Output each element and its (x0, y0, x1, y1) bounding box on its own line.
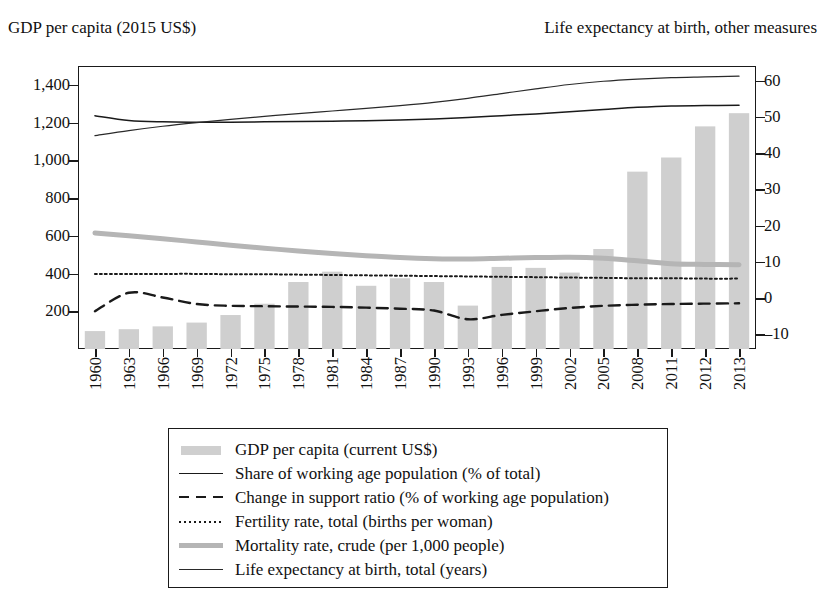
x-axis-tick-label: 1963 (120, 357, 140, 390)
x-axis-tick-label: 1972 (222, 357, 242, 390)
x-axis-tickmark (705, 349, 707, 357)
bar (390, 278, 410, 349)
legend-key-dashed-line (179, 490, 225, 506)
legend-key-thick-gray-line (179, 538, 225, 554)
legend-item: Share of working age population (% of to… (179, 462, 657, 486)
x-axis-tickmark (366, 349, 368, 357)
x-axis-tick-label: 1999 (527, 357, 547, 390)
x-axis-tickmark (434, 349, 436, 357)
legend-item-label: Share of working age population (% of to… (235, 464, 540, 484)
x-axis-tick-label: 1969 (188, 357, 208, 390)
left-axis-tickmark (69, 311, 78, 313)
line-series (95, 105, 739, 122)
right-axis-tickmark (756, 334, 765, 336)
x-axis-tick-label: 2012 (696, 357, 716, 390)
x-axis-tick-label: 1996 (493, 357, 513, 390)
bar (356, 286, 376, 349)
x-axis-tickmark (570, 349, 572, 357)
x-axis-tickmark (637, 349, 639, 357)
left-axis-tickmark (69, 85, 78, 87)
legend-key-bar-swatch (179, 442, 225, 458)
x-axis-tickmark (468, 349, 470, 357)
bar (593, 249, 613, 349)
x-axis-tickmark (95, 349, 97, 357)
bar (153, 326, 173, 349)
bar (322, 272, 342, 349)
x-axis-tick-label: 2002 (561, 357, 581, 390)
chart-figure: GDP per capita (2015 US$) Life expectanc… (0, 0, 831, 603)
plot-area (78, 66, 756, 349)
x-axis-tickmark (400, 349, 402, 357)
line-series (95, 76, 739, 136)
x-axis-tickmark (298, 349, 300, 357)
x-axis-tickmark (603, 349, 605, 357)
right-axis-tickmark (756, 153, 765, 155)
legend-key-thin-line (179, 562, 225, 578)
left-axis-tickmark (69, 236, 78, 238)
right-axis-tickmark (756, 81, 765, 83)
x-axis-tick-label: 1966 (154, 357, 174, 390)
legend-item: Mortality rate, crude (per 1,000 people) (179, 534, 657, 558)
left-axis-tickmark (69, 123, 78, 125)
solid-line-icon (179, 473, 223, 474)
x-axis-tick-label: 1993 (459, 357, 479, 390)
bar-swatch-icon (181, 446, 221, 455)
thin-line-icon (179, 569, 223, 570)
bar (525, 268, 545, 349)
dotted-line-icon (179, 521, 223, 523)
legend-item-label: Fertility rate, total (births per woman) (235, 512, 493, 532)
x-axis-tick-label: 1975 (255, 357, 275, 390)
x-axis-tickmark (502, 349, 504, 357)
bar (458, 306, 478, 349)
bar (729, 113, 749, 349)
legend-item-label: Change in support ratio (% of working ag… (235, 488, 609, 508)
plot-canvas (78, 66, 756, 349)
bar (695, 126, 715, 349)
bar (424, 282, 444, 349)
x-axis-tick-label: 2005 (594, 357, 614, 390)
x-axis-tickmark (129, 349, 131, 357)
x-axis-tick-label: 1987 (391, 357, 411, 390)
x-axis-tickmark (332, 349, 334, 357)
right-axis-tickmark (756, 189, 765, 191)
x-axis-tickmark (163, 349, 165, 357)
bar (254, 304, 274, 349)
x-axis-tick-label: 1960 (86, 357, 106, 390)
left-axis-tickmark (69, 274, 78, 276)
legend-key-solid-line (179, 466, 225, 482)
legend-item-label: Mortality rate, crude (per 1,000 people) (235, 536, 505, 556)
x-axis-tickmark (264, 349, 266, 357)
right-axis-tickmark (756, 226, 765, 228)
right-axis-tickmark (756, 298, 765, 300)
x-axis-tick-label: 1978 (289, 357, 309, 390)
legend-item: Change in support ratio (% of working ag… (179, 486, 657, 510)
thick-gray-line-icon (179, 543, 223, 548)
x-axis-tick-label: 2013 (730, 357, 750, 390)
bar (220, 315, 240, 349)
right-axis-title: Life expectancy at birth, other measures (544, 18, 817, 38)
x-axis-tickmark (231, 349, 233, 357)
legend-key-dotted-line (179, 514, 225, 530)
left-axis-title: GDP per capita (2015 US$) (8, 18, 196, 38)
x-axis-tick-label: 1990 (425, 357, 445, 390)
bar (119, 329, 139, 349)
left-axis-tickmark (69, 160, 78, 162)
bar (288, 282, 308, 349)
x-axis-tickmark (671, 349, 673, 357)
x-axis-tickmark (536, 349, 538, 357)
bar (85, 331, 105, 349)
x-axis-tick-label: 1984 (357, 357, 377, 390)
right-axis-tickmark (756, 262, 765, 264)
bar (559, 273, 579, 349)
chart-legend: GDP per capita (current US$)Share of wor… (168, 428, 668, 588)
legend-item-label: Life expectancy at birth, total (years) (235, 560, 487, 580)
legend-item: Fertility rate, total (births per woman) (179, 510, 657, 534)
left-axis-tickmarks (0, 66, 78, 349)
x-axis-tick-label: 1981 (323, 357, 343, 390)
legend-item: Life expectancy at birth, total (years) (179, 558, 657, 582)
x-axis-tick-label: 2008 (628, 357, 648, 390)
bar (492, 267, 512, 349)
right-axis-tickmarks (756, 66, 776, 349)
legend-item: GDP per capita (current US$) (179, 438, 657, 462)
bar (186, 323, 206, 349)
